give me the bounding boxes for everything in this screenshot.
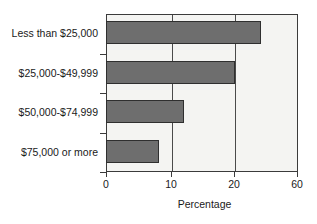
category-label: $25,000-$49,999 xyxy=(19,54,98,94)
bar-slot xyxy=(106,133,298,173)
bar-slot xyxy=(106,93,298,133)
category-axis-labels: Less than $25,000 $25,000-$49,999 $50,00… xyxy=(0,14,102,172)
x-axis-tick-label: 60 xyxy=(291,178,303,190)
x-axis-tick xyxy=(171,172,172,177)
bar-slot xyxy=(106,54,298,94)
x-axis-tick xyxy=(297,172,298,177)
category-label: Less than $25,000 xyxy=(12,14,98,54)
x-axis-tick-label: 20 xyxy=(228,178,240,190)
x-axis-tick xyxy=(106,172,107,177)
x-axis-title-wrap: Percentage xyxy=(0,198,317,210)
x-axis-tick xyxy=(234,172,235,177)
bars-layer xyxy=(106,14,298,172)
bar-75000-or-more xyxy=(106,140,159,163)
x-axis-tick-label: 10 xyxy=(165,178,177,190)
bar-slot xyxy=(106,14,298,54)
x-axis-tick-label: 0 xyxy=(103,178,109,190)
bar-25000-49999 xyxy=(106,61,235,84)
x-axis-title: Percentage xyxy=(178,198,232,210)
category-label: $50,000-$74,999 xyxy=(19,93,98,133)
bar-chart: Less than $25,000 $25,000-$49,999 $50,00… xyxy=(0,0,317,224)
bar-50000-74999 xyxy=(106,100,184,123)
category-label: $75,000 or more xyxy=(21,133,98,173)
bar-less-than-25000 xyxy=(106,21,261,44)
